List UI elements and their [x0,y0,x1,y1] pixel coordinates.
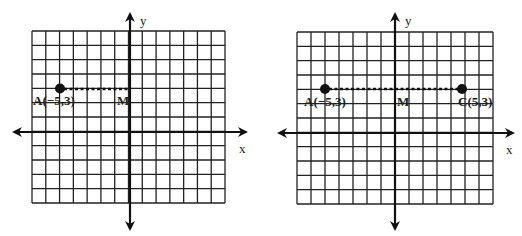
right-point-c [457,84,467,94]
left-coordinate-plane: x y A(−5,3) M [14,13,246,229]
left-x-axis-label: x [239,141,246,156]
left-grid [32,31,225,203]
left-point-a [55,84,65,94]
right-point-a [320,84,330,94]
left-label-a: A(−5,3) [33,93,75,108]
left-label-m: M [117,93,129,108]
right-label-c: C(5,3) [458,94,492,109]
right-label-m: M [397,94,409,109]
right-label-a: A(−5,3) [304,94,346,109]
left-y-axis-label: y [140,13,147,28]
right-y-axis-label: y [405,13,412,28]
right-coordinate-plane: x y A(−5,3) M C(5,3) [279,13,513,229]
right-x-axis-label: x [506,142,513,157]
